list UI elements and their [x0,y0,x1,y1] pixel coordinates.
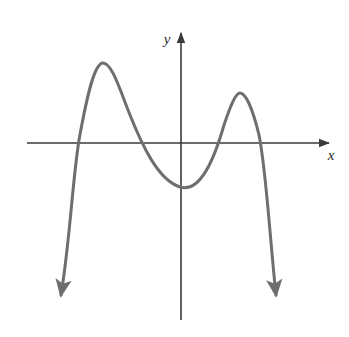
x-axis-label: x [327,147,335,163]
graph-figure: y x [0,0,349,337]
figure-background [0,0,349,337]
coordinate-plane-svg: y x [0,0,349,337]
y-axis-label: y [162,31,171,47]
